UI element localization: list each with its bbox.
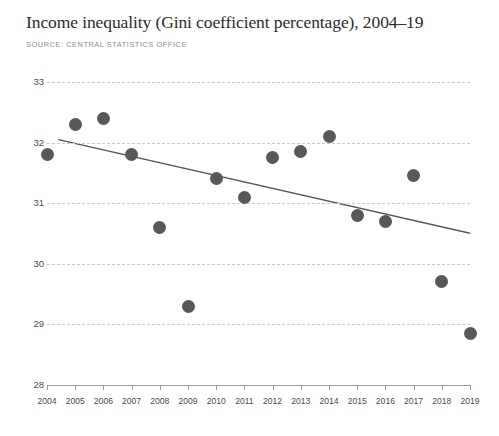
data-point (182, 300, 195, 313)
data-point (379, 215, 392, 228)
data-point (69, 118, 82, 131)
y-axis-tick-label-30: 30 (24, 258, 44, 269)
x-axis-tick-label-2012: 2012 (263, 396, 282, 406)
x-axis-tick-2004 (47, 385, 48, 390)
trendline (47, 82, 470, 385)
x-axis-tick-2019 (470, 385, 471, 390)
x-axis-tick-2013 (301, 385, 302, 390)
data-point (210, 172, 223, 185)
gridline-y-29 (47, 324, 470, 325)
x-axis-line (47, 385, 470, 386)
x-axis-tick-label-2007: 2007 (122, 396, 141, 406)
data-point (153, 221, 166, 234)
y-axis-tick-label-33: 33 (24, 76, 44, 87)
data-point (294, 145, 307, 158)
data-point (351, 209, 364, 222)
gridline-y-30 (47, 264, 470, 265)
x-axis-tick-label-2010: 2010 (207, 396, 226, 406)
data-point (97, 112, 110, 125)
data-point (464, 327, 477, 340)
x-axis-tick-label-2011: 2011 (235, 396, 253, 406)
plot-area (47, 82, 470, 385)
x-axis-tick-2005 (75, 385, 76, 390)
x-axis-tick-2018 (442, 385, 443, 390)
y-axis-tick-label-28: 28 (24, 379, 44, 390)
x-axis-tick-label-2004: 2004 (37, 396, 56, 406)
gridline-y-31 (47, 203, 470, 204)
x-axis-tick-label-2019: 2019 (460, 396, 479, 406)
x-axis-tick-label-2014: 2014 (319, 396, 338, 406)
data-point (125, 148, 138, 161)
chart-source-label: SOURCE: CENTRAL STATISTICS OFFICE (26, 40, 187, 49)
gridline-y-33 (47, 82, 470, 83)
x-axis-tick-2016 (385, 385, 386, 390)
y-axis-tick-label-29: 29 (24, 318, 44, 329)
x-axis-tick-label-2006: 2006 (94, 396, 113, 406)
data-point (238, 191, 251, 204)
x-axis-tick-2015 (357, 385, 358, 390)
x-axis-tick-2008 (160, 385, 161, 390)
x-axis-tick-2011 (244, 385, 245, 390)
x-axis-tick-2006 (103, 385, 104, 390)
x-axis-tick-label-2013: 2013 (291, 396, 310, 406)
data-point (407, 169, 420, 182)
x-axis-tick-label-2016: 2016 (376, 396, 395, 406)
x-axis-tick-label-2018: 2018 (432, 396, 451, 406)
chart-title: Income inequality (Gini coefficient perc… (26, 12, 423, 33)
x-axis-tick-label-2017: 2017 (404, 396, 423, 406)
y-axis-tick-label-31: 31 (24, 197, 44, 208)
x-axis-tick-2014 (329, 385, 330, 390)
data-point (323, 130, 336, 143)
data-point (435, 275, 448, 288)
x-axis-tick-2010 (216, 385, 217, 390)
x-axis-tick-2017 (414, 385, 415, 390)
x-axis-tick-label-2015: 2015 (348, 396, 367, 406)
x-axis-tick-label-2009: 2009 (178, 396, 197, 406)
chart-container: Income inequality (Gini coefficient perc… (0, 0, 499, 436)
data-point (41, 148, 54, 161)
x-axis-tick-2009 (188, 385, 189, 390)
x-axis-tick-2012 (273, 385, 274, 390)
y-axis-tick-label-32: 32 (24, 137, 44, 148)
x-axis-tick-label-2008: 2008 (150, 396, 169, 406)
data-point (266, 151, 279, 164)
x-axis-tick-2007 (132, 385, 133, 390)
x-axis-tick-label-2005: 2005 (66, 396, 85, 406)
gridline-y-32 (47, 143, 470, 144)
